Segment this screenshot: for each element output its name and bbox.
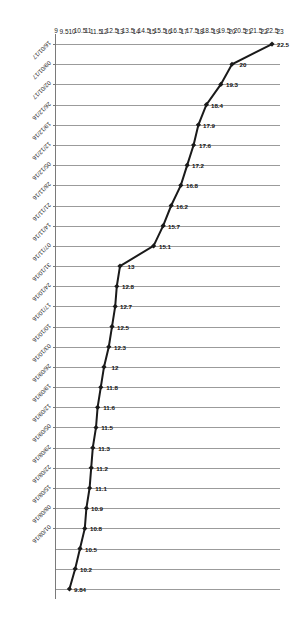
data-point-marker: [109, 324, 114, 329]
category-axis-labels: 16/01/1709/01/1702/01/1726/12/1619/12/16…: [0, 34, 54, 599]
category-axis-tick-mark: [53, 185, 56, 186]
category-axis-tick-label: 08/08/16: [31, 504, 52, 525]
data-point-label: 11.8: [106, 384, 118, 391]
category-axis-tick-mark: [53, 528, 56, 529]
data-point-label: 15.7: [168, 222, 180, 229]
data-point-label: 10.5: [85, 545, 97, 552]
category-axis-tick-label: 12/12/16: [31, 141, 52, 162]
category-axis-tick-mark: [53, 266, 56, 267]
category-axis-tick-label: 14/11/16: [32, 221, 52, 241]
data-point-label: 12.5: [117, 323, 129, 330]
data-point-label: 17.6: [199, 141, 211, 148]
category-axis-tick-mark: [53, 44, 56, 45]
category-axis-tick-mark: [53, 125, 56, 126]
category-axis-tick-label: 26/09/16: [31, 363, 52, 384]
data-point-label: 18.4: [211, 101, 223, 108]
data-point-marker: [90, 445, 95, 450]
data-point-label: 11.2: [96, 464, 108, 471]
data-point-label: 10.2: [80, 565, 92, 572]
category-axis-tick-mark: [53, 367, 56, 368]
category-axis-tick-mark: [53, 468, 56, 469]
line-series: [56, 34, 280, 599]
category-axis-tick-mark: [53, 508, 56, 509]
data-point-marker: [67, 586, 72, 591]
data-point-label: 12: [112, 363, 119, 370]
data-point-marker: [98, 385, 103, 390]
category-axis-tick-label: 15/08/16: [31, 484, 52, 505]
data-point-label: 11.5: [101, 424, 113, 431]
category-axis-tick-mark: [53, 206, 56, 207]
category-axis-tick-mark: [53, 145, 56, 146]
category-axis-tick-label: 16/01/17: [31, 40, 52, 61]
data-point-label: 16.2: [176, 202, 188, 209]
category-axis-tick-label: 05/12/16: [31, 161, 52, 182]
category-axis-tick-mark: [53, 105, 56, 106]
data-point-label: 10.8: [90, 525, 102, 532]
category-axis-tick-mark: [53, 64, 56, 65]
category-axis-tick-mark: [53, 84, 56, 85]
category-axis-tick-label: 07/11/16: [32, 242, 52, 262]
data-point-label: 12.3: [114, 343, 126, 350]
data-point-marker: [101, 364, 106, 369]
category-axis-tick-label: 21/11/16: [32, 201, 52, 221]
category-axis-tick-label: 29/08/16: [31, 443, 52, 464]
category-axis-tick-label: 10/10/16: [31, 322, 52, 343]
data-point-label: 9.84: [74, 585, 86, 592]
category-axis-tick-label: 17/10/16: [31, 302, 52, 323]
category-axis-tick-mark: [53, 286, 56, 287]
category-axis-tick-mark: [53, 347, 56, 348]
data-point-label: 15.1: [159, 242, 171, 249]
category-axis-tick-label: 01/08/16: [31, 524, 52, 545]
data-point-marker: [84, 506, 89, 511]
data-point-label: 13: [128, 263, 135, 270]
data-point-label: 22.5: [277, 41, 289, 48]
category-axis-tick-label: 31/10/16: [31, 262, 52, 283]
data-point-label: 16.8: [186, 182, 198, 189]
data-point-label: 12.7: [120, 303, 132, 310]
data-point-marker: [87, 485, 92, 490]
chart-figure: 2322.52221.52120.52019.51918.51817.51716…: [0, 0, 294, 641]
data-point-label: 12.8: [122, 283, 134, 290]
category-axis-tick-mark: [53, 226, 56, 227]
data-point-label: 20: [240, 61, 247, 68]
data-point-marker: [82, 526, 87, 531]
data-point-label: 17.2: [192, 162, 204, 169]
data-point-marker: [196, 122, 201, 127]
data-point-marker: [185, 163, 190, 168]
data-point-marker: [89, 465, 94, 470]
category-axis-tick-mark: [53, 327, 56, 328]
data-point-marker: [106, 344, 111, 349]
plot-area: [56, 34, 280, 599]
category-axis-tick-mark: [53, 306, 56, 307]
data-point-marker: [113, 304, 118, 309]
category-axis-tick-mark: [53, 407, 56, 408]
category-axis-tick-label: 24/10/16: [31, 282, 52, 303]
category-axis-tick-mark: [53, 488, 56, 489]
category-axis-tick-label: 09/01/17: [31, 60, 52, 81]
data-point-marker: [95, 405, 100, 410]
value-axis-labels: 2322.52221.52120.52019.51918.51817.51716…: [56, 0, 280, 34]
x-axis-line: [55, 34, 56, 599]
data-point-marker: [73, 566, 78, 571]
category-axis-tick-mark: [53, 448, 56, 449]
category-axis-tick-mark: [53, 246, 56, 247]
category-axis-tick-mark: [53, 165, 56, 166]
data-point-label: 11.3: [98, 444, 110, 451]
category-axis-tick-label: 19/09/16: [31, 383, 52, 404]
data-point-marker: [77, 546, 82, 551]
category-axis-tick-label: 03/10/16: [31, 343, 52, 364]
category-axis-tick-label: 02/01/17: [31, 80, 52, 101]
category-axis-tick-label: 12/09/16: [31, 403, 52, 424]
category-axis-tick-label: 19/12/16: [31, 121, 52, 142]
data-point-marker: [114, 284, 119, 289]
category-axis-tick-label: 22/08/16: [31, 464, 52, 485]
category-axis-tick-label: 05/09/16: [31, 423, 52, 444]
category-axis-tick-mark: [53, 427, 56, 428]
data-point-label: 19.3: [226, 81, 238, 88]
data-point-label: 11.1: [95, 485, 107, 492]
data-point-marker: [93, 425, 98, 430]
data-point-label: 10.9: [91, 505, 103, 512]
category-axis-tick-mark: [53, 387, 56, 388]
category-axis-tick-label: 28/11/16: [32, 181, 52, 201]
data-point-label: 17.9: [203, 121, 215, 128]
